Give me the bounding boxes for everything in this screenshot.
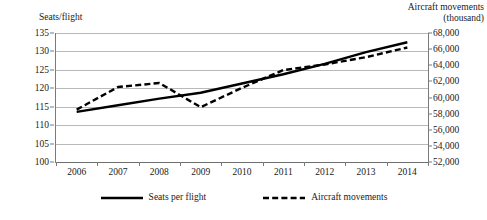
x-axis-tick-label: 2010 <box>233 166 252 178</box>
x-axis-tick-label: 2009 <box>191 166 210 178</box>
x-axis-ticks: 200620072008200920102011201220132014 <box>56 166 428 182</box>
left-axis-tick-label: 100 <box>35 157 49 167</box>
series-line <box>77 48 408 110</box>
gridline <box>56 162 428 163</box>
left-axis-tick-label: 110 <box>35 120 49 130</box>
right-axis-tick-mark <box>428 145 432 146</box>
right-axis-tick-mark <box>428 49 432 50</box>
x-axis-tick-mark <box>304 162 305 166</box>
x-axis-tick-label: 2014 <box>398 166 417 178</box>
right-axis-line <box>428 33 429 163</box>
left-axis-title: Seats/flight <box>39 12 82 23</box>
x-axis-tick-mark <box>345 162 346 166</box>
plot-area <box>56 33 428 162</box>
x-axis-tick-mark <box>387 162 388 166</box>
right-axis-tick-mark <box>428 81 432 82</box>
right-axis-tick-label: 54,000 <box>433 141 459 151</box>
left-axis-tick-mark <box>50 106 54 107</box>
right-axis-tick-label: 58,000 <box>433 109 459 119</box>
right-axis-tick-mark <box>428 65 432 66</box>
left-axis-tick-mark <box>50 125 54 126</box>
x-axis-tick-mark <box>56 162 57 166</box>
left-axis-tick-label: 125 <box>35 65 49 75</box>
x-axis-tick-label: 2012 <box>315 166 334 178</box>
x-axis-tick-label: 2006 <box>67 166 86 178</box>
right-axis-tick-label: 52,000 <box>433 157 459 167</box>
right-axis-tick-mark <box>428 129 432 130</box>
right-axis-tick-label: 66,000 <box>433 44 459 54</box>
x-axis-tick-mark <box>97 162 98 166</box>
left-axis-ticks: 100105110115120125130135 <box>15 33 49 163</box>
right-axis-tick-mark <box>428 97 432 98</box>
right-axis-tick-label: 62,000 <box>433 76 459 86</box>
legend-label: Aircraft movements <box>311 192 387 203</box>
x-axis-tick-mark <box>139 162 140 166</box>
solid-line-icon <box>100 193 144 203</box>
left-axis-tick-mark <box>50 51 54 52</box>
left-axis-tick-label: 120 <box>35 83 49 93</box>
right-axis-tick-mark <box>428 33 432 34</box>
chart-legend: Seats per flightAircraft movements <box>0 192 487 203</box>
x-axis-tick-label: 2008 <box>150 166 169 178</box>
x-axis-tick-label: 2013 <box>357 166 376 178</box>
left-axis-tick-mark <box>50 88 54 89</box>
right-axis-tick-mark <box>428 113 432 114</box>
legend-item[interactable]: Aircraft movements <box>262 192 387 203</box>
left-axis-tick-mark <box>50 69 54 70</box>
left-axis-tick-label: 115 <box>35 102 49 112</box>
legend-label: Seats per flight <box>149 192 207 203</box>
legend-item[interactable]: Seats per flight <box>100 192 207 203</box>
x-axis-tick-mark <box>428 162 429 166</box>
x-axis-tick-mark <box>263 162 264 166</box>
right-axis-tick-label: 60,000 <box>433 93 459 103</box>
x-axis-tick-label: 2011 <box>274 166 293 178</box>
left-axis-tick-label: 130 <box>35 46 49 56</box>
right-axis-ticks: 52,00054,00056,00058,00060,00062,00064,0… <box>433 33 467 163</box>
right-axis-tick-label: 68,000 <box>433 28 459 38</box>
right-axis-tick-label: 56,000 <box>433 125 459 135</box>
left-axis-tick-mark <box>50 162 54 163</box>
dashed-line-icon <box>262 193 306 203</box>
series-lines <box>56 33 428 162</box>
x-axis-tick-mark <box>221 162 222 166</box>
left-axis-tick-mark <box>50 33 54 34</box>
x-axis-tick-mark <box>180 162 181 166</box>
right-axis-title: Aircraft movements (thousand) <box>334 2 484 24</box>
left-axis-tick-label: 105 <box>35 139 49 149</box>
series-line <box>77 42 408 112</box>
chart-figure: Seats/flight Aircraft movements (thousan… <box>0 0 487 220</box>
left-axis-tick-label: 135 <box>35 28 49 38</box>
right-axis-tick-label: 64,000 <box>433 60 459 70</box>
left-axis-tick-mark <box>50 143 54 144</box>
x-axis-tick-label: 2007 <box>109 166 128 178</box>
